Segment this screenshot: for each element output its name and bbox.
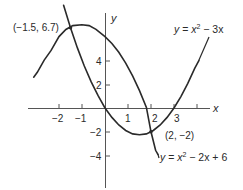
- y-tick-label: −4: [90, 151, 102, 162]
- point-label-intersection-2: (2, −2): [165, 130, 194, 141]
- intersection-point-2: [149, 130, 153, 134]
- x-tick-label: 2: [152, 113, 158, 124]
- leader-line-eq1: [199, 37, 209, 60]
- y-axis-label: y: [110, 12, 118, 24]
- x-tick-label: −1: [75, 113, 87, 124]
- x-tick-label: 3: [174, 113, 180, 124]
- y-tick-label: −2: [90, 127, 102, 138]
- x-tick-label: −2: [52, 113, 64, 124]
- axes: [28, 13, 210, 188]
- graph-figure: y x −2 −1 1 2 3 4 2 −2 −4 (−1.5, 6.7) (2…: [0, 0, 243, 190]
- y-tick-label: 2: [96, 80, 102, 91]
- y-tick-label: 4: [96, 56, 102, 67]
- x-axis-label: x: [212, 102, 219, 114]
- intersection-point-1: [69, 26, 73, 30]
- x-tick-label: 1: [125, 113, 131, 124]
- equation-label-x2-minus-3x: y = x2 − 3x: [173, 23, 224, 35]
- equation-label-x2-minus-2x-plus-6: y = x2 − 2x + 6: [159, 151, 227, 163]
- leader-line-eq2: [158, 154, 159, 158]
- point-label-intersection-1: (−1.5, 6.7): [13, 22, 59, 33]
